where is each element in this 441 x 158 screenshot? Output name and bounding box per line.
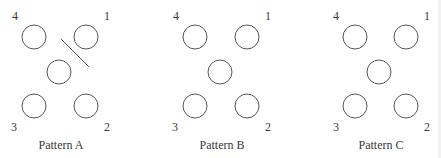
pattern-caption: Pattern C bbox=[359, 138, 404, 152]
hole-top-right bbox=[235, 25, 259, 49]
corner-label-bottom-left: 3 bbox=[11, 121, 17, 133]
hole-bottom-right bbox=[394, 94, 418, 118]
corner-label-top-left: 4 bbox=[173, 10, 179, 22]
hole-bottom-left bbox=[343, 94, 367, 118]
corner-label-top-left: 4 bbox=[333, 10, 339, 22]
hole-bottom-right bbox=[74, 94, 98, 118]
hole-top-left bbox=[183, 25, 207, 49]
pattern-b-diagram bbox=[150, 0, 300, 158]
corner-label-bottom-right: 2 bbox=[424, 121, 430, 133]
hole-top-left bbox=[22, 25, 46, 49]
hole-center bbox=[367, 60, 391, 84]
corner-label-top-right: 1 bbox=[104, 10, 110, 22]
hole-bottom-left bbox=[22, 94, 46, 118]
corner-label-bottom-right: 2 bbox=[265, 121, 271, 133]
hole-top-right bbox=[394, 25, 418, 49]
hole-bottom-left bbox=[183, 94, 207, 118]
pattern-a: 4 1 3 2 Pattern A bbox=[0, 0, 150, 158]
hole-center bbox=[47, 60, 71, 84]
pattern-caption: Pattern B bbox=[200, 138, 245, 152]
hole-top-left bbox=[343, 25, 367, 49]
pattern-a-diagram bbox=[0, 0, 150, 158]
pattern-c: 4 1 3 2 Pattern C bbox=[300, 0, 441, 158]
corner-label-top-right: 1 bbox=[265, 10, 271, 22]
corner-label-top-right: 1 bbox=[424, 10, 430, 22]
hole-top-right bbox=[74, 25, 98, 49]
pattern-b: 4 1 3 2 Pattern B bbox=[150, 0, 300, 158]
hole-bottom-right bbox=[235, 94, 259, 118]
corner-label-bottom-right: 2 bbox=[104, 121, 110, 133]
pattern-caption: Pattern A bbox=[39, 138, 84, 152]
pattern-c-diagram bbox=[300, 0, 441, 158]
slash-line bbox=[61, 39, 89, 67]
hole-center bbox=[208, 60, 232, 84]
corner-label-bottom-left: 3 bbox=[333, 121, 339, 133]
corner-label-top-left: 4 bbox=[12, 10, 18, 22]
corner-label-bottom-left: 3 bbox=[172, 121, 178, 133]
